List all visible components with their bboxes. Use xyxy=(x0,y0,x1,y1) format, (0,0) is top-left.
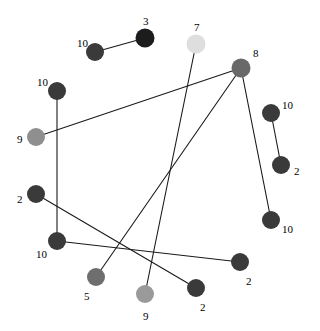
graph-node-label: 10 xyxy=(36,249,47,260)
graph-edge xyxy=(96,68,241,277)
graph-node[interactable] xyxy=(136,285,154,303)
graph-edge xyxy=(241,68,271,220)
graph-node-label: 5 xyxy=(84,291,90,302)
node-layer xyxy=(27,29,290,304)
graph-figure: 10378109102210102529 xyxy=(0,0,320,331)
graph-node-label: 8 xyxy=(253,48,259,59)
graph-node-label: 9 xyxy=(143,311,149,322)
graph-node[interactable] xyxy=(231,253,249,271)
graph-node-label: 10 xyxy=(77,38,88,49)
graph-node[interactable] xyxy=(136,29,155,48)
graph-node-label: 7 xyxy=(194,22,200,33)
graph-node[interactable] xyxy=(187,279,205,297)
graph-node[interactable] xyxy=(232,59,251,78)
graph-node[interactable] xyxy=(86,43,104,61)
graph-node-label: 2 xyxy=(246,276,252,287)
graph-node-label: 10 xyxy=(37,77,48,88)
graph-node-label: 2 xyxy=(200,302,206,313)
graph-node[interactable] xyxy=(27,185,45,203)
graph-node[interactable] xyxy=(48,232,66,250)
graph-node[interactable] xyxy=(87,268,105,286)
graph-node-label: 9 xyxy=(17,134,23,145)
graph-node-label: 2 xyxy=(294,166,300,177)
graph-node[interactable] xyxy=(187,35,206,54)
graph-node-label: 2 xyxy=(17,194,23,205)
graph-node-label: 10 xyxy=(282,100,293,111)
graph-node[interactable] xyxy=(262,211,280,229)
graph-node[interactable] xyxy=(48,82,66,100)
graph-edge xyxy=(36,68,241,137)
graph-node[interactable] xyxy=(27,128,45,146)
graph-edge xyxy=(57,241,240,262)
graph-canvas xyxy=(0,0,320,331)
graph-node-label: 3 xyxy=(143,16,149,27)
graph-node-label: 10 xyxy=(282,224,293,235)
graph-node[interactable] xyxy=(262,104,280,122)
graph-node[interactable] xyxy=(272,156,290,174)
